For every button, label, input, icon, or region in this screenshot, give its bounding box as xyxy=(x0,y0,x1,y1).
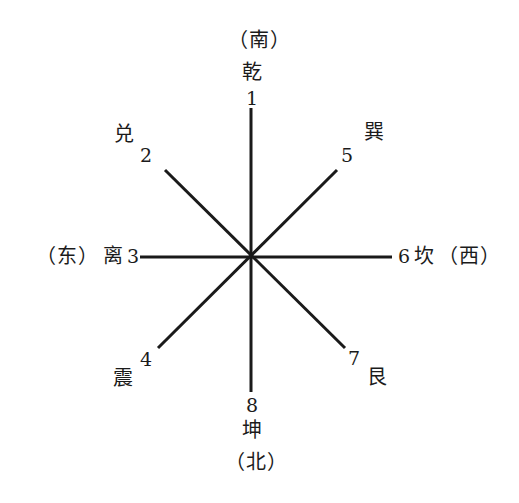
direction-label-north: （北） xyxy=(225,452,288,472)
trigram-label-kan: 坎 xyxy=(414,246,434,266)
trigram-number-4: 4 xyxy=(140,350,152,369)
trigram-number-6: 6 xyxy=(398,247,410,266)
trigram-label-qian: 乾 xyxy=(242,62,262,82)
trigram-number-7: 7 xyxy=(348,349,360,368)
axis-line-diagonal-northeast-southwest xyxy=(158,170,337,348)
trigram-number-8: 8 xyxy=(246,396,258,415)
direction-label-east: （东） xyxy=(36,246,99,266)
trigram-number-5: 5 xyxy=(341,146,353,165)
trigram-number-2: 2 xyxy=(140,146,152,165)
trigram-label-dui: 兑 xyxy=(114,124,134,144)
direction-label-south: （南） xyxy=(228,30,291,50)
direction-label-west: （西） xyxy=(438,246,501,266)
bagua-diagram: （南） 乾 1 8 坤 （北） （东） 离 3 6 坎 （西） 兑 2 5 巽 … xyxy=(0,0,519,503)
trigram-label-zhen: 震 xyxy=(113,368,133,388)
right-label-group: 6 坎 （西） xyxy=(398,246,501,266)
axis-line-diagonal-northwest-southeast xyxy=(165,170,345,348)
trigram-label-kun: 坤 xyxy=(242,420,262,440)
left-label-group: （东） 离 3 xyxy=(36,246,139,266)
trigram-number-1: 1 xyxy=(246,89,258,108)
trigram-number-3: 3 xyxy=(127,247,139,266)
trigram-label-gen: 艮 xyxy=(367,367,387,387)
trigram-label-xun: 巽 xyxy=(364,122,384,142)
trigram-label-li: 离 xyxy=(103,246,123,266)
